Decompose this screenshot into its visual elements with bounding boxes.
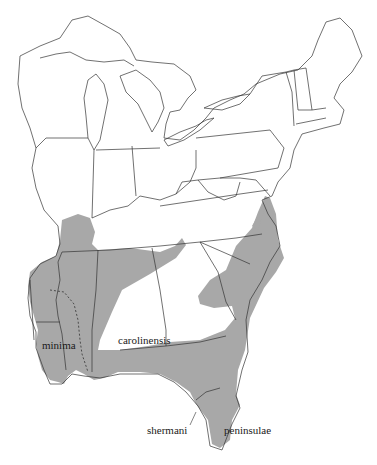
label-shermani: shermani [147,424,187,436]
label-peninsulae: peninsulae [224,424,271,436]
range-shading [28,196,284,448]
label-minima: minima [42,339,76,351]
range-map [0,0,377,465]
label-carolinensis: carolinensis [118,334,171,346]
shermani-leader [190,412,196,425]
